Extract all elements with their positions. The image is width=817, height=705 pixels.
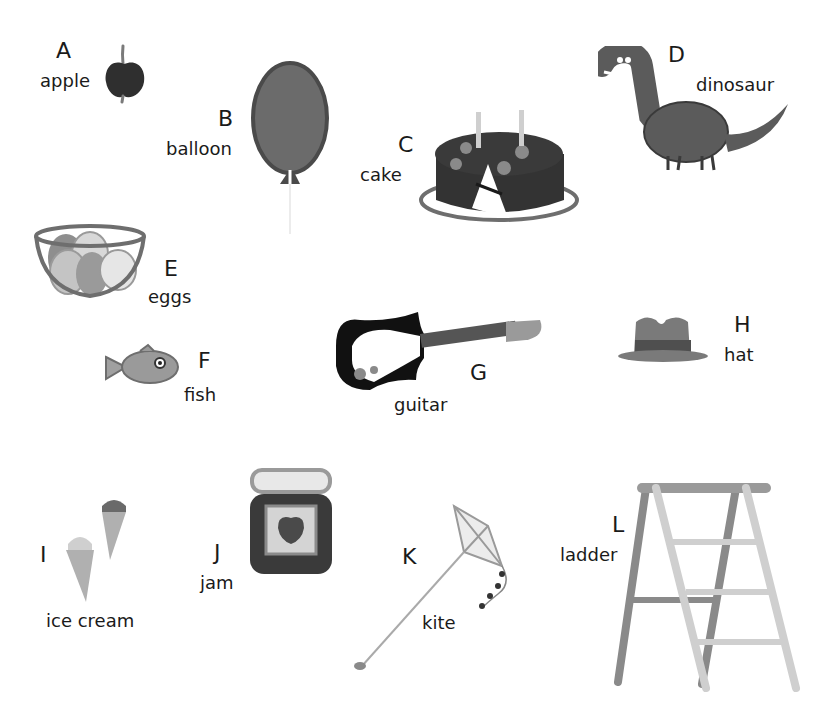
hat-icon (616, 312, 710, 364)
letter-i: I (40, 544, 47, 566)
letter-h: H (734, 314, 751, 336)
letter-c: C (398, 134, 413, 156)
word-hat: hat (724, 346, 754, 364)
balloon-icon (250, 56, 330, 236)
letter-a: A (56, 40, 71, 62)
letter-b: B (218, 108, 233, 130)
word-jam: jam (200, 574, 234, 592)
apple-icon (100, 42, 152, 104)
kite-icon (352, 504, 512, 672)
word-cake: cake (360, 166, 402, 184)
word-apple: apple (40, 72, 90, 90)
ladder-icon (606, 480, 806, 696)
word-eggs: eggs (148, 288, 191, 306)
letter-e: E (164, 258, 178, 280)
eggs-bowl-icon (32, 220, 148, 300)
letter-j: J (214, 542, 221, 564)
letter-f: F (198, 350, 211, 372)
cake-icon (416, 104, 582, 226)
word-ice-cream: ice cream (46, 612, 134, 630)
word-balloon: balloon (166, 140, 232, 158)
word-guitar: guitar (394, 396, 447, 414)
fish-icon (104, 343, 180, 391)
word-fish: fish (184, 386, 216, 404)
dinosaur-icon (598, 46, 794, 176)
jam-jar-icon (248, 468, 334, 576)
ice-cream-icon (64, 492, 134, 604)
guitar-icon (330, 306, 546, 390)
